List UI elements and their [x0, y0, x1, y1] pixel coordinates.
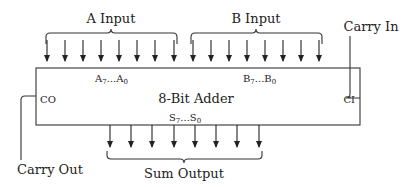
carry-in-label: Carry In — [343, 19, 399, 34]
a-input-arrows — [47, 40, 174, 61]
a-input-brace — [46, 29, 177, 44]
b-input-arrows — [193, 40, 319, 61]
adder-title: 8-Bit Adder — [158, 91, 234, 106]
sum-output-arrows — [110, 125, 259, 147]
carry-out-line — [21, 96, 36, 160]
sum-bus-label: S7...S0 — [169, 112, 201, 125]
b-input-label: B Input — [231, 11, 281, 26]
adder-diagram: A Input B Input Carry In A7...A0 B7...B0… — [0, 0, 408, 187]
carry-in-line — [346, 36, 360, 98]
co-pin-label: CO — [40, 94, 56, 105]
sum-output-brace — [107, 151, 262, 163]
a-input-label: A Input — [86, 11, 137, 26]
carry-out-label: Carry Out — [17, 162, 84, 177]
a-bus-label: A7...A0 — [94, 73, 128, 86]
sum-output-label: Sum Output — [144, 166, 225, 181]
b-bus-label: B7...B0 — [243, 73, 276, 86]
